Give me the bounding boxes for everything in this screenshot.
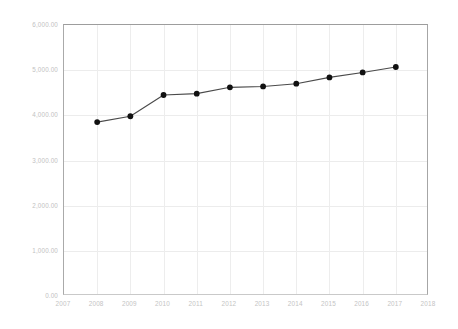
x-axis-tick-label: 2012 [221, 300, 236, 307]
x-axis-tick-label: 2011 [189, 300, 203, 307]
data-point-marker [227, 84, 233, 90]
y-axis-tick-label: 6,000.00 [32, 21, 58, 28]
x-axis-tick-label: 2016 [354, 300, 369, 307]
x-axis-tick-label: 2009 [122, 300, 137, 307]
y-axis-tick-label: 1,000.00 [32, 246, 58, 253]
data-series [64, 25, 429, 296]
x-axis-tick-label: 2007 [56, 300, 71, 307]
data-point-marker [161, 92, 167, 98]
x-axis-tick-label: 2017 [387, 300, 402, 307]
y-axis-tick-labels: 0.001,000.002,000.003,000.004,000.005,00… [0, 0, 58, 329]
x-axis-tick-label: 2018 [421, 300, 436, 307]
data-point-marker [293, 81, 299, 87]
data-point-marker [393, 64, 399, 70]
data-point-marker [127, 113, 133, 119]
data-point-marker [194, 91, 200, 97]
line-chart: 0.001,000.002,000.003,000.004,000.005,00… [0, 0, 458, 329]
y-axis-tick-label: 4,000.00 [32, 111, 58, 118]
x-axis-tick-label: 2015 [321, 300, 336, 307]
x-axis-tick-labels: 2007200820092010201120122013201420152016… [0, 300, 458, 320]
y-axis-tick-label: 3,000.00 [32, 156, 58, 163]
series-line [97, 67, 396, 122]
y-axis-tick-label: 2,000.00 [32, 201, 58, 208]
data-point-marker [327, 74, 333, 80]
x-axis-tick-label: 2008 [89, 300, 104, 307]
data-point-marker [360, 70, 366, 76]
y-axis-tick-label: 0.00 [45, 292, 58, 299]
x-axis-tick-label: 2010 [155, 300, 170, 307]
x-axis-tick-label: 2013 [255, 300, 270, 307]
data-point-marker [260, 84, 266, 90]
plot-area [63, 24, 428, 295]
y-axis-tick-label: 5,000.00 [32, 66, 58, 73]
data-point-marker [94, 119, 100, 125]
x-axis-tick-label: 2014 [288, 300, 303, 307]
